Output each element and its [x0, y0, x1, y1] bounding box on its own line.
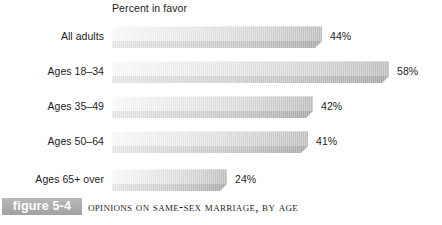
- bar-category-label: Ages 18–34: [0, 64, 104, 78]
- bar-bottom-face: [112, 184, 227, 191]
- figure-container: Percent in favor All adults44%Ages 18–34…: [0, 0, 442, 225]
- bar-category-label: All adults: [0, 29, 104, 43]
- bar-value-label: 58%: [397, 64, 418, 78]
- bar-row: Ages 35–4942%: [0, 92, 442, 122]
- bar-top-edge: [112, 96, 313, 97]
- bar-chart-plot-area: All adults44%Ages 18–3458%Ages 35–4942%A…: [0, 22, 442, 194]
- bar-front-face: [112, 131, 308, 146]
- figure-caption-text: Opinions on Same-Sex Marriage, by Age: [88, 199, 298, 215]
- figure-caption: figure 5-4 Opinions on Same-Sex Marriage…: [0, 198, 442, 218]
- bar-bottom-face: [112, 76, 389, 83]
- bar-category-label: Ages 50–64: [0, 134, 104, 148]
- bar-bottom-face: [112, 111, 313, 118]
- bar-front-face: [112, 26, 322, 41]
- bar-category-label: Ages 65+ over: [0, 172, 104, 186]
- bar-value-label: 24%: [235, 172, 256, 186]
- bar: [112, 96, 313, 118]
- bar-row: All adults44%: [0, 22, 442, 52]
- chart-title: Percent in favor: [112, 2, 187, 15]
- bar-front-face: [112, 96, 313, 111]
- bar-value-label: 41%: [316, 134, 337, 148]
- bar-category-label: Ages 35–49: [0, 99, 104, 113]
- figure-number-tag: figure 5-4: [2, 198, 82, 215]
- bar-top-edge: [112, 131, 308, 132]
- bar-bottom-face: [112, 146, 308, 153]
- bar-row: Ages 18–3458%: [0, 57, 442, 87]
- bar: [112, 169, 227, 191]
- bar-top-edge: [112, 26, 322, 27]
- bar: [112, 26, 322, 48]
- bar-row: Ages 65+ over24%: [0, 165, 442, 195]
- bar-value-label: 44%: [330, 29, 351, 43]
- bar-front-face: [112, 61, 389, 76]
- bar-value-label: 42%: [321, 99, 342, 113]
- bar: [112, 131, 308, 153]
- bar-bottom-face: [112, 41, 322, 48]
- bar-top-edge: [112, 61, 389, 62]
- bar: [112, 61, 389, 83]
- bar-top-edge: [112, 169, 227, 170]
- bar-row: Ages 50–6441%: [0, 127, 442, 157]
- bar-front-face: [112, 169, 227, 184]
